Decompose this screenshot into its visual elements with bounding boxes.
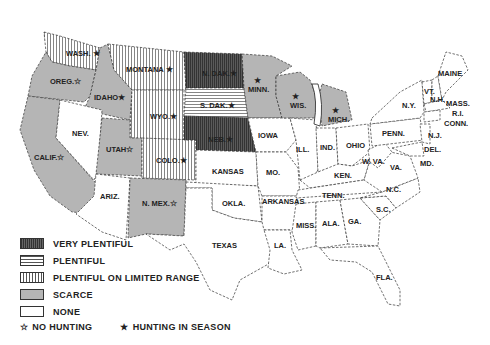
label-maine: MAINE <box>438 69 462 78</box>
star-mich: ★ <box>332 106 340 115</box>
label-ken: KEN. <box>334 171 352 180</box>
label-ala: ALA. <box>322 219 340 228</box>
label-sdak: S. DAK.★ <box>200 101 236 110</box>
label-wis: WIS. <box>290 101 306 110</box>
label-nc: N.C. <box>386 185 401 194</box>
filled-star-icon: ★ <box>120 322 128 332</box>
plentiful-limited-swatch <box>20 272 44 283</box>
plentiful-swatch <box>20 255 44 266</box>
label-ri: R.I. <box>452 109 464 118</box>
label-calif: CALIF.☆ <box>34 153 65 162</box>
label-wva: W. VA. <box>362 157 385 166</box>
legend-item-none: NONE <box>20 303 240 320</box>
none-swatch <box>20 306 44 317</box>
label-nev: NEV. <box>72 129 89 138</box>
label-ohio: OHIO <box>346 141 365 150</box>
label-montana: MONTANA ★ <box>126 65 174 74</box>
label-md: MD. <box>420 159 434 168</box>
label-va: VA. <box>390 163 402 172</box>
label-ga: GA. <box>348 217 361 226</box>
label-oreg: OREG.☆ <box>50 77 82 86</box>
state-conn <box>424 110 440 122</box>
label-neb: NEB.★ <box>208 135 234 144</box>
legend-item-plentiful-limited: PLENTIFUL ON LIMITED RANGE <box>20 269 240 286</box>
hunting-key: ☆NO HUNTING ★HUNTING IN SEASON <box>20 322 231 332</box>
label-nmex: N. MEX.☆ <box>142 199 178 208</box>
legend-item-plentiful: PLENTIFUL <box>20 252 240 269</box>
very-plentiful-swatch <box>20 238 44 249</box>
label-idaho: IDAHO★ <box>94 93 126 102</box>
label-la: LA. <box>274 241 286 250</box>
label-colo: COLO.★ <box>156 156 188 165</box>
label-sc: S.C. <box>376 205 391 214</box>
star-wis: ★ <box>292 92 300 101</box>
label-mo: MO. <box>266 168 280 177</box>
label-del: DEL. <box>424 145 441 154</box>
legend: VERY PLENTIFUL PLENTIFUL PLENTIFUL ON LI… <box>20 235 240 320</box>
label-kansas: KANSAS <box>212 167 244 176</box>
outline-star-icon: ☆ <box>20 322 28 332</box>
no-hunting-key: ☆NO HUNTING <box>20 322 92 332</box>
state-nmex <box>128 178 186 238</box>
label-fla: FLA. <box>376 273 393 282</box>
scarce-swatch <box>20 289 44 300</box>
label-wash: WASH. ★ <box>66 49 101 58</box>
label-utah: UTAH☆ <box>106 145 134 154</box>
label-minn: MINN. <box>248 85 269 94</box>
label-ill: ILL. <box>296 145 309 154</box>
label-iowa: IOWA <box>258 131 279 140</box>
legend-item-very-plentiful: VERY PLENTIFUL <box>20 235 240 252</box>
label-ny: N.Y. <box>402 101 416 110</box>
label-miss: MISS. <box>296 221 316 230</box>
label-ariz: ARIZ. <box>100 192 120 201</box>
label-nj: N.J. <box>428 131 442 140</box>
label-ind: IND. <box>320 143 335 152</box>
label-conn: CONN. <box>444 119 468 128</box>
hunting-in-season-key: ★HUNTING IN SEASON <box>120 322 230 332</box>
label-mich: MICH. <box>328 115 349 124</box>
legend-item-scarce: SCARCE <box>20 286 240 303</box>
label-okla: OKLA. <box>222 199 245 208</box>
label-mass: MASS. <box>446 99 470 108</box>
label-tenn: TENN. <box>322 191 345 200</box>
state-ny <box>370 80 424 124</box>
label-nh: N.H. <box>430 95 445 104</box>
label-wyo: WYO.★ <box>150 112 178 121</box>
label-penn: PENN. <box>382 129 405 138</box>
label-ndak: N. DAK.★ <box>202 69 238 78</box>
star-minn: ★ <box>254 76 262 85</box>
label-arkansas: ARKANSAS <box>262 197 305 206</box>
